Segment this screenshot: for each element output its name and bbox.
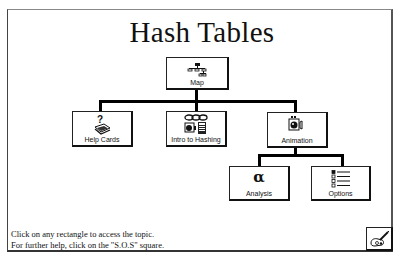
sos-hand-icon — [369, 230, 391, 253]
options-label: Options — [312, 190, 369, 197]
analysis-button[interactable]: α Analysis — [229, 166, 290, 201]
animation-label: Animation — [268, 137, 326, 144]
instruction-line-1: Click on any rectangle to access the top… — [11, 229, 154, 239]
map-button[interactable]: Map — [166, 57, 229, 90]
map-label: Map — [167, 79, 227, 86]
film-camera-icon — [287, 116, 307, 136]
intro-to-hashing-button[interactable]: Intro to Hashing — [166, 111, 227, 147]
alpha-icon: α — [253, 168, 265, 186]
instruction-line-2: For further help, click on the "S.O.S" s… — [11, 240, 164, 250]
animation-button[interactable]: Animation — [267, 112, 328, 148]
connector-level2-bar — [258, 154, 344, 157]
connector-options-leg — [341, 154, 344, 166]
help-cards-button[interactable]: ? Help Cards — [72, 111, 133, 147]
sos-button[interactable] — [366, 227, 393, 251]
checklist-icon — [331, 170, 351, 192]
connector-analysis-leg — [258, 154, 261, 166]
page-title: Hash Tables — [0, 16, 404, 49]
intro-to-hashing-label: Intro to Hashing — [167, 136, 225, 143]
help-cards-label: Help Cards — [73, 136, 131, 143]
options-button[interactable]: Options — [311, 166, 371, 201]
svg-text:?: ? — [97, 115, 103, 125]
connector-level1-bar — [99, 100, 297, 103]
analysis-label: Analysis — [230, 190, 288, 197]
